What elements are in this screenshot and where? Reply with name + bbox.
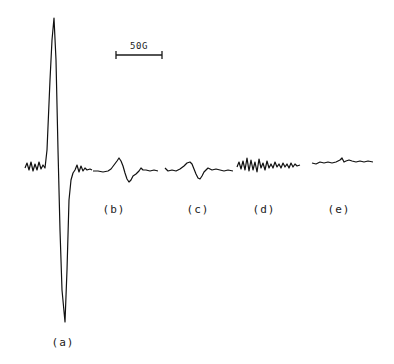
trace-b <box>93 158 158 182</box>
spectra-plot <box>0 0 394 364</box>
trace-label-d: (d) <box>253 203 276 216</box>
trace-d <box>237 158 300 172</box>
trace-e <box>312 158 373 164</box>
scale-bar-label: 50G <box>130 41 148 51</box>
trace-label-a: (a) <box>52 336 75 349</box>
spectra-traces <box>25 18 373 322</box>
scale-bar <box>116 51 162 59</box>
trace-label-b: (b) <box>103 203 126 216</box>
trace-label-e: (e) <box>328 203 351 216</box>
trace-c <box>165 162 233 179</box>
trace-a <box>25 18 92 322</box>
trace-label-c: (c) <box>187 203 210 216</box>
